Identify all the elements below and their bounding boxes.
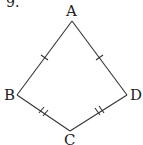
kite-diagram (0, 0, 143, 145)
tick-ab (41, 55, 48, 60)
vertex-label-b: B (4, 88, 15, 103)
tick-ad (96, 55, 103, 60)
edge-bc (17, 95, 70, 131)
vertex-label-d: D (130, 88, 142, 103)
vertex-label-a: A (66, 4, 77, 19)
vertex-label-c: C (64, 133, 75, 145)
